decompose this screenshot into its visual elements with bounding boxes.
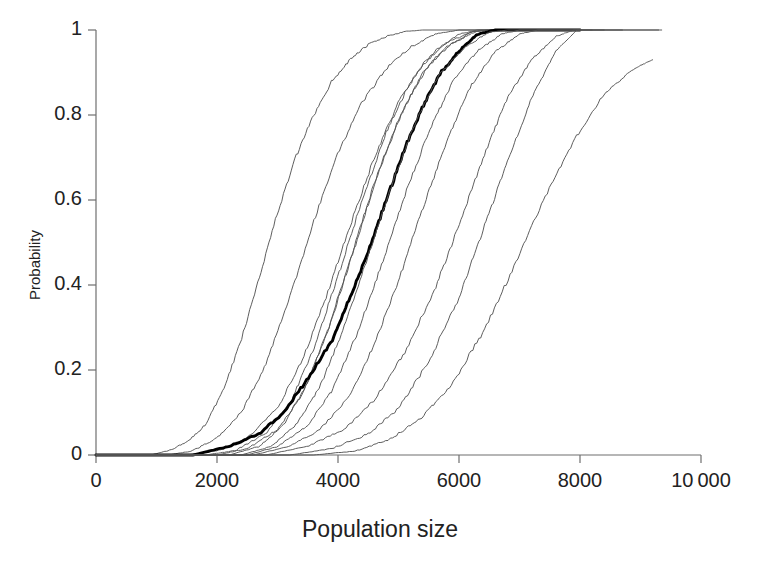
cdf-curve	[96, 30, 574, 455]
x-tick-label: 4000	[278, 469, 398, 492]
cdf-curve	[96, 30, 574, 455]
cdf-curve	[96, 30, 659, 455]
axis-lines	[96, 30, 701, 455]
y-tick-label: 0	[0, 442, 82, 465]
y-axis-title: Probability	[26, 230, 43, 300]
cdf-curve	[96, 60, 653, 455]
cdf-curve-bold	[96, 30, 580, 455]
y-tick-label: 0.8	[0, 102, 82, 125]
x-axis-title: Population size	[0, 516, 760, 543]
y-tick-label: 1	[0, 17, 82, 40]
cdf-curve	[96, 30, 604, 455]
x-tick-label: 0	[36, 469, 156, 492]
x-tick-label: 2000	[157, 469, 277, 492]
cdf-curve	[96, 30, 562, 455]
x-tick-label: 10 000	[641, 469, 760, 492]
cdf-curve	[96, 30, 544, 455]
x-tick-label: 8000	[520, 469, 640, 492]
y-tick-label: 0.2	[0, 357, 82, 380]
y-axis-ticks	[88, 30, 96, 455]
cdf-curve	[96, 30, 622, 455]
y-tick-label: 0.6	[0, 187, 82, 210]
cdf-curve	[96, 30, 580, 455]
chart-figure: 0 0.2 0.4 0.6 0.8 1 0 2000 4000 6000 800…	[0, 0, 760, 577]
cdf-curves	[96, 30, 662, 455]
x-tick-label: 6000	[399, 469, 519, 492]
